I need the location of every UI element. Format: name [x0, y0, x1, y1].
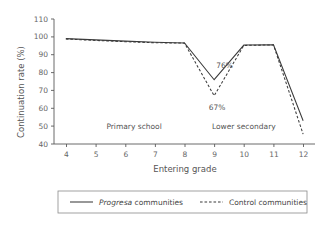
y-tick-110: 110 [34, 15, 49, 24]
chart-legend: Progresa communities Control communities [58, 191, 307, 213]
y-tick-70: 70 [38, 86, 48, 95]
chart-figure: Continuation rate (%) 110 100 90 80 70 6… [0, 0, 330, 225]
series-line-progresa-communities [66, 39, 303, 121]
x-tick-10: 10 [239, 150, 249, 159]
region-label-primary-school: Primary school [106, 122, 161, 131]
x-tick-8: 8 [183, 150, 188, 159]
y-tick-100: 100 [34, 32, 49, 41]
x-axis-tick-labels: 4 5 6 7 8 9 10 11 12 [64, 150, 308, 159]
x-tick-4: 4 [64, 150, 69, 159]
legend-label-control-communities: Control communities [229, 198, 307, 207]
x-tick-5: 5 [94, 150, 99, 159]
x-tick-7: 7 [153, 150, 158, 159]
series-line-control-communities [66, 39, 303, 134]
y-tick-90: 90 [38, 50, 48, 59]
legend-label-progresa-communities: Progresa communities [99, 198, 183, 207]
x-axis-title: Entering grade [153, 164, 216, 174]
annotation-progresa-dip-value: 76% [216, 61, 233, 70]
y-tick-40: 40 [38, 140, 48, 149]
x-tick-11: 11 [269, 150, 279, 159]
x-tick-9: 9 [212, 150, 217, 159]
y-tick-80: 80 [38, 68, 48, 77]
annotation-control-dip-value: 67% [209, 103, 226, 112]
y-tick-50: 50 [38, 122, 48, 131]
x-tick-12: 12 [299, 150, 309, 159]
x-tick-6: 6 [123, 150, 128, 159]
continuation-rate-line-chart: Continuation rate (%) 110 100 90 80 70 6… [0, 0, 330, 225]
y-axis-tick-labels: 110 100 90 80 70 60 50 40 [34, 15, 49, 149]
y-axis-title: Continuation rate (%) [16, 46, 26, 138]
region-label-lower-secondary: Lower secondary [212, 122, 276, 131]
y-tick-60: 60 [38, 104, 48, 113]
